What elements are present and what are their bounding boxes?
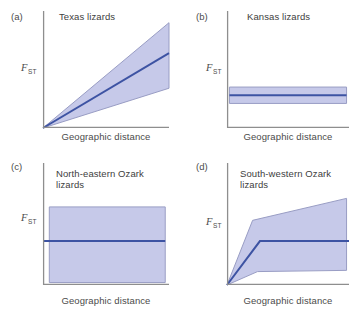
fst-main: F bbox=[206, 216, 212, 227]
fst-sub: ST bbox=[213, 222, 222, 229]
panel-d: (d) South-western Ozark lizards FST Geog… bbox=[0, 0, 357, 311]
panel-d-plot-canvas bbox=[227, 163, 349, 285]
panel-d-label: (d) bbox=[196, 162, 208, 172]
panel-d-y-axis-label: FST bbox=[206, 215, 221, 227]
four-panel-fst-figure: (a) Texas lizards FST Geographic distanc… bbox=[0, 0, 357, 311]
panel-d-x-axis-label: Geographic distance bbox=[227, 295, 349, 306]
